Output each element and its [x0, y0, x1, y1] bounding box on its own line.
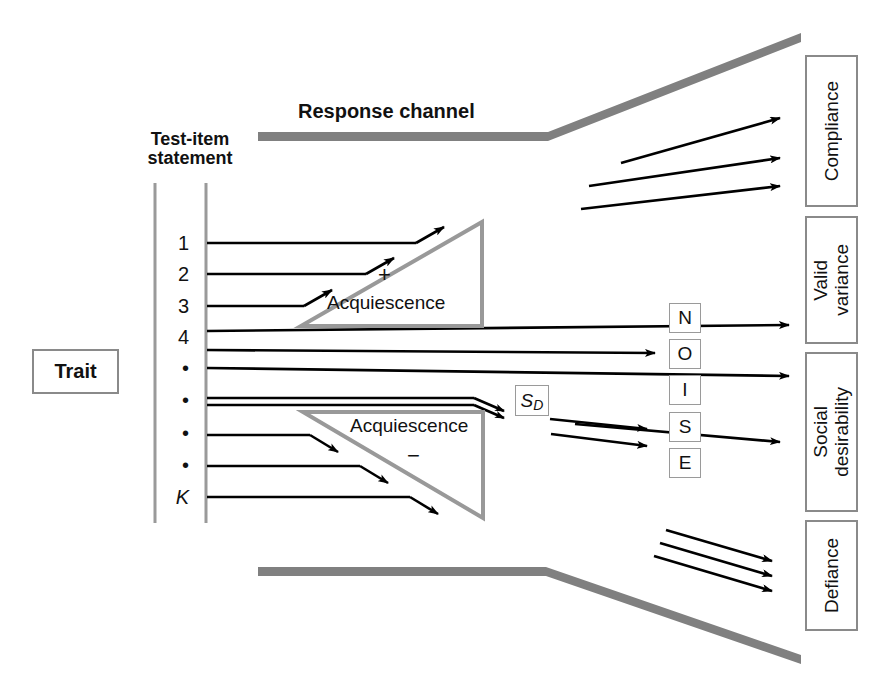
defiance-arrows — [654, 530, 772, 591]
noise-letter-s: S — [669, 412, 701, 442]
acquiescence-positive-sign: + — [378, 262, 391, 288]
acquiescence-positive-label: Acquiescence — [327, 292, 445, 314]
item-label-2: 2 — [163, 263, 189, 286]
item-line-9 — [207, 466, 388, 483]
compliance-arrows — [581, 118, 780, 209]
item-label-4: 4 — [163, 326, 189, 349]
outcome-box-valid-variance-label: Validvariance — [810, 244, 853, 316]
noise-letter-i-label: I — [682, 379, 687, 401]
test-item-heading-line1: Test-item — [130, 129, 250, 150]
noise-letter-o: O — [669, 339, 701, 369]
sd-sub: D — [533, 397, 543, 413]
outcome-box-defiance: Defiance — [805, 520, 858, 631]
sd-main: S — [521, 390, 534, 412]
social-desirability-line2: desirability — [832, 387, 853, 477]
outcome-box-social-desirability: Socialdesirability — [805, 352, 858, 512]
valid-variance-line1: Valid — [810, 260, 831, 301]
item-label-8: • — [163, 455, 189, 475]
acquiescence-negative-sign: − — [407, 443, 420, 469]
response-channel-upper — [258, 33, 801, 141]
item-line-6 — [207, 368, 789, 376]
noise-letter-o-label: O — [678, 343, 693, 365]
item-label-3: 3 — [163, 295, 189, 318]
item-line-5 — [207, 350, 655, 353]
test-item-heading-line2: statement — [130, 148, 250, 169]
item-line-K — [207, 497, 438, 514]
item-line-2 — [207, 258, 394, 274]
outcome-box-compliance-label: Compliance — [821, 81, 843, 181]
outcome-box-defiance-label: Defiance — [821, 538, 843, 613]
item-line-3 — [207, 290, 332, 306]
item-label-7: • — [163, 423, 189, 443]
noise-letter-n-label: N — [678, 307, 692, 329]
outcome-box-compliance: Compliance — [805, 55, 858, 207]
acquiescence-negative-label: Acquiescence — [350, 415, 468, 437]
outcome-box-social-desirability-label: Socialdesirability — [810, 387, 853, 477]
social-desirability-line1: Social — [810, 406, 831, 458]
response-channel-title: Response channel — [298, 100, 475, 123]
social-desirability-arrows — [550, 419, 780, 446]
item-label-1: 1 — [163, 232, 189, 255]
item-label-6: • — [163, 390, 189, 410]
social-desirability-marker: SD — [515, 385, 549, 416]
noise-letter-e: E — [669, 448, 701, 478]
noise-letter-i: I — [669, 375, 701, 405]
trait-box: Trait — [32, 349, 119, 394]
item-label-K: K — [163, 486, 189, 509]
noise-letter-n: N — [669, 303, 701, 333]
diagram-canvas: Response channel Test-item statement Tra… — [0, 0, 881, 689]
noise-letter-e-label: E — [679, 452, 692, 474]
valid-variance-line2: variance — [832, 244, 853, 316]
noise-letter-s-label: S — [679, 416, 692, 438]
item-line-1 — [207, 227, 444, 243]
trait-box-label: Trait — [54, 360, 96, 383]
item-line-8 — [207, 435, 338, 452]
outcome-box-valid-variance: Validvariance — [805, 216, 858, 344]
response-channel-lower — [258, 567, 801, 664]
item-label-5: • — [163, 358, 189, 378]
